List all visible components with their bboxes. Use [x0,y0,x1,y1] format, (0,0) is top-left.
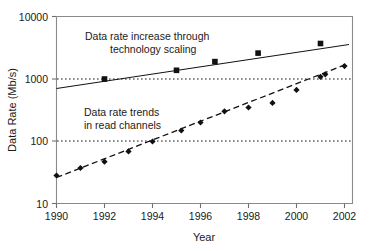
x-axis-ticks [57,204,345,209]
x-tick-label-1996: 1996 [189,210,213,222]
data-point-marker [53,172,59,178]
data-point-marker [77,165,83,171]
y-axis-tick-labels: 10000 1000 100 10 [19,11,48,210]
annotation-read-channels-line1: Data rate trends [84,106,159,118]
data-point-marker [102,76,108,82]
x-tick-label-1994: 1994 [141,210,165,222]
data-point-marker [269,100,275,106]
data-point-marker [293,87,299,93]
y-tick-label-100: 100 [30,135,48,147]
x-axis-title-label: Year [193,231,216,243]
x-axis-tick-labels: 1990 1992 1994 1996 1998 2000 2002 [45,210,357,222]
data-point-marker [245,104,251,110]
data-point-marker [125,148,131,154]
data-point-marker [212,59,218,65]
x-tick-label-2000: 2000 [285,210,309,222]
series-technology-scaling [57,41,350,89]
data-point-marker [341,63,347,69]
y-tick-label-10: 10 [36,198,48,210]
annotation-technology-scaling-line1: Data rate increase through [85,30,209,42]
trendline-technology-scaling [57,45,350,89]
data-rate-trends-chart: 10000 1000 100 10 1990 1992 1994 1996 19… [0,0,369,251]
y-axis-title: Data Rate (Mb/s) [6,68,18,152]
x-tick-label-1992: 1992 [93,210,117,222]
data-point-marker [318,41,324,47]
x-axis-title: Year [193,231,216,243]
x-tick-label-2002: 2002 [333,210,357,222]
chart-container: 10000 1000 100 10 1990 1992 1994 1996 19… [0,0,369,251]
y-axis-title-label: Data Rate (Mb/s) [6,68,18,152]
y-tick-label-10000: 10000 [19,11,48,23]
annotation-technology-scaling: Data rate increase through technology sc… [85,30,209,55]
annotation-technology-scaling-line2: technology scaling [110,43,197,55]
y-tick-label-1000: 1000 [25,73,49,85]
x-tick-label-1998: 1998 [237,210,261,222]
data-point-marker [174,68,180,74]
annotation-read-channels-line2: in read channels [84,119,161,131]
data-point-marker [221,108,227,114]
x-tick-label-1990: 1990 [45,210,69,222]
annotation-read-channels: Data rate trends in read channels [84,106,161,131]
data-point-marker [255,50,261,56]
